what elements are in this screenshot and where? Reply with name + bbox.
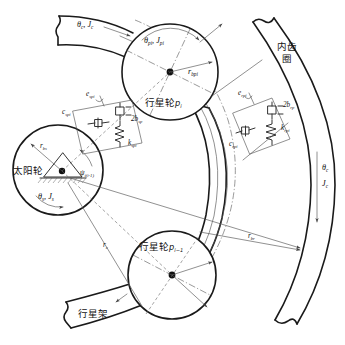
sun-planet-damping-label: cspi bbox=[62, 108, 71, 117]
carrier-radius-label: rc bbox=[103, 241, 108, 250]
ring-planet-damping-label: crpi bbox=[229, 140, 238, 149]
carrier-top-rotation-label: θc, Jc bbox=[77, 20, 94, 30]
carrier-direction-arrow-bottom bbox=[116, 294, 127, 302]
carrier-rotation-label: θc bbox=[322, 163, 329, 173]
carrier-band-top-left bbox=[56, 16, 133, 58]
backlash-symbol-rp bbox=[268, 102, 283, 119]
carrier-direction-arrow-top bbox=[104, 27, 130, 36]
figure-canvas: θc, Jc θpi, Jpi rbpi 行星轮pi 内齿 圈 espi csp… bbox=[0, 0, 345, 345]
sun-planet-backlash-label: 2bsp bbox=[131, 115, 143, 124]
spring-symbol-rp bbox=[266, 120, 276, 145]
planet-pi-name-label: 行星轮pi bbox=[145, 97, 182, 109]
ring-planet-error-label: erpi bbox=[238, 89, 247, 98]
ring-gear-label-line1: 内齿 bbox=[277, 41, 297, 52]
damper-symbol-sp bbox=[88, 118, 109, 128]
sun-planet-error-label: espi bbox=[86, 90, 95, 99]
sun-rotation-label: θs, Js bbox=[38, 192, 54, 202]
ring-gear-label-line2: 圈 bbox=[282, 53, 292, 64]
carrier-label: 行星架 bbox=[78, 308, 108, 319]
carrier-inertia-label: Jc bbox=[322, 179, 329, 189]
spring-symbol-sp bbox=[115, 121, 124, 147]
backlash-symbol-sp bbox=[116, 103, 131, 120]
sun-planet-stiffness-label: kspi bbox=[128, 139, 137, 148]
ring-planet-backlash-label: 2brp bbox=[283, 101, 295, 110]
planetary-gear-schematic: θc, Jc θpi, Jpi rbpi 行星轮pi 内齿 圈 espi csp… bbox=[0, 0, 345, 345]
sun-gear-label: 太阳轮 bbox=[13, 165, 43, 176]
